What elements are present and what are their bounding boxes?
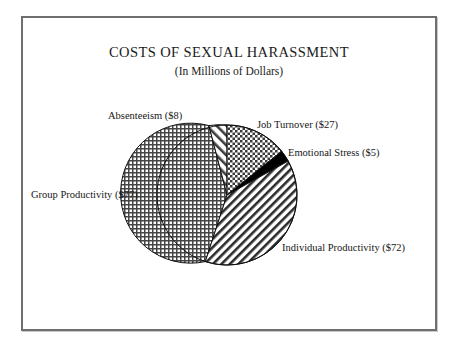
slice-label-emotional-stress: Emotional Stress ($5) <box>288 147 380 159</box>
slice-label-group-productivity: Group Productivity ($77) <box>31 189 138 201</box>
slice-label-individual-productivity: Individual Productivity ($72) <box>282 242 405 254</box>
title-block: COSTS OF SEXUAL HARASSMENT (In Millions … <box>23 44 435 77</box>
slice-label-job-turnover: Job Turnover ($27) <box>257 119 338 131</box>
chart-title: COSTS OF SEXUAL HARASSMENT <box>23 44 435 61</box>
figure-frame: COSTS OF SEXUAL HARASSMENT (In Millions … <box>21 16 437 331</box>
chart-subtitle: (In Millions of Dollars) <box>23 65 435 77</box>
slice-label-absenteeism: Absenteeism ($8) <box>108 110 182 122</box>
figure-caption <box>0 347 457 357</box>
